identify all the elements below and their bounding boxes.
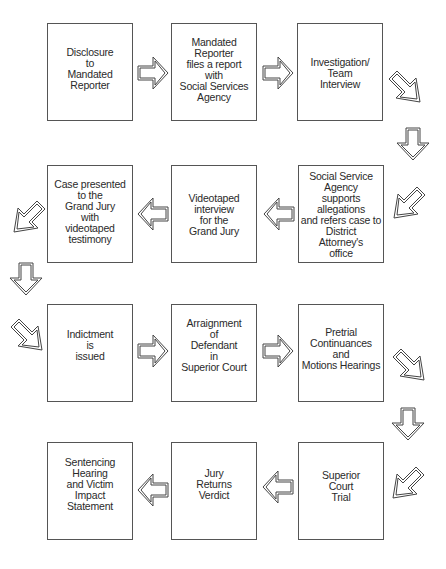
arrow-right-icon — [137, 334, 169, 368]
arrow-down-left-icon — [12, 200, 46, 234]
arrow-right-icon — [137, 56, 169, 90]
step-disclosure: Disclosure to Mandated Reporter — [47, 23, 133, 121]
step-arraignment: Arraignment of Defendant in Superior Cou… — [171, 304, 257, 402]
step-label: Case presented to the Grand Jury with vi… — [48, 179, 132, 245]
step-agency-refers-case: Social Service Agency supports allegatio… — [298, 165, 384, 263]
arrow-down-left-icon — [392, 186, 426, 220]
step-indictment: Indictment is issued — [47, 304, 133, 402]
step-label: Videotaped interview for the Grand Jury — [172, 193, 256, 237]
step-label: Pretrial Continuances and Motions Hearin… — [299, 327, 383, 371]
arrow-left-icon — [262, 470, 294, 504]
arrow-left-icon — [137, 473, 169, 507]
step-jury-verdict: Jury Returns Verdict — [171, 442, 257, 540]
step-label: Social Service Agency supports allegatio… — [299, 171, 383, 259]
arrow-down-icon — [391, 407, 425, 441]
step-label: Indictment is issued — [48, 329, 132, 362]
step-label: Jury Returns Verdict — [172, 468, 256, 501]
step-label: Arraignment of Defendant in Superior Cou… — [172, 318, 256, 373]
arrow-right-icon — [262, 56, 294, 90]
arrow-right-icon — [262, 334, 294, 368]
arrow-down-right-icon — [388, 70, 422, 104]
arrow-left-icon — [263, 197, 295, 231]
step-label: Superior Court Trial — [299, 470, 383, 503]
arrow-left-icon — [137, 197, 169, 231]
arrow-down-right-icon — [10, 318, 44, 352]
arrow-down-right-icon — [392, 348, 426, 382]
step-label: Mandated Reporter files a report with So… — [172, 37, 256, 103]
step-superior-court-trial: Superior Court Trial — [298, 442, 384, 540]
step-label: Investigation/ Team Interview — [298, 57, 382, 90]
step-mandated-reporter-files-report: Mandated Reporter files a report with So… — [171, 23, 257, 121]
step-case-presented-grand-jury: Case presented to the Grand Jury with vi… — [47, 165, 133, 263]
step-videotaped-interview: Videotaped interview for the Grand Jury — [171, 165, 257, 263]
step-label: Disclosure to Mandated Reporter — [48, 47, 132, 91]
arrow-down-icon — [396, 127, 430, 161]
step-pretrial-hearings: Pretrial Continuances and Motions Hearin… — [298, 304, 384, 402]
arrow-down-icon — [9, 262, 43, 296]
arrow-down-left-icon — [391, 466, 425, 500]
step-sentencing: Sentencing Hearing and Victim Impact Sta… — [47, 442, 133, 540]
step-investigation: Investigation/ Team Interview — [297, 23, 383, 121]
step-label: Sentencing Hearing and Victim Impact Sta… — [48, 457, 132, 512]
